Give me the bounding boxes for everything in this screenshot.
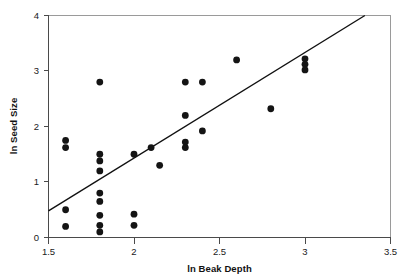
x-tick-label-3: 3 [302,246,307,257]
data-point [199,128,206,135]
y-axis: 4 3 2 1 0 ln Seed Size [8,10,49,243]
data-point [233,57,240,64]
data-point [96,198,103,205]
data-point [96,229,103,236]
data-point [302,66,309,73]
y-tick-label-0: 0 [34,232,39,243]
y-tick-label-4: 4 [34,10,39,21]
y-tick-label-1: 1 [34,176,39,187]
x-tick-label-2p5: 2.5 [213,246,226,257]
scatter-plot-figure: 4 3 2 1 0 ln Seed Size 1.5 2 2.5 3 3.5 l… [0,0,412,280]
data-point [182,144,189,151]
data-point [182,79,189,86]
x-tick-label-3p5: 3.5 [384,246,397,257]
regression-trendline [49,16,365,211]
data-point [62,223,69,230]
data-point [131,211,138,218]
y-tick-label-3: 3 [34,65,39,76]
data-point [96,222,103,229]
data-point [96,158,103,165]
y-axis-title: ln Seed Size [8,98,19,155]
data-point [96,151,103,158]
x-tick-label-1p5: 1.5 [42,246,55,257]
data-point [96,79,103,86]
y-tick-label-2: 2 [34,121,39,132]
data-points-group [62,55,308,235]
data-point [156,162,163,169]
data-point [96,190,103,197]
data-point [148,144,155,151]
trendline-group [49,16,365,211]
x-tick-label-2: 2 [131,246,136,257]
data-point [62,206,69,213]
data-point [62,144,69,151]
data-point [96,168,103,175]
chart-canvas: 4 3 2 1 0 ln Seed Size 1.5 2 2.5 3 3.5 l… [0,0,412,280]
x-axis: 1.5 2 2.5 3 3.5 ln Beak Depth [42,238,397,275]
data-point [199,79,206,86]
data-point [131,222,138,229]
data-point [267,105,274,112]
x-axis-title: ln Beak Depth [187,263,252,274]
data-point [96,212,103,219]
data-point [182,112,189,119]
data-point [62,137,69,144]
data-point [131,151,138,158]
